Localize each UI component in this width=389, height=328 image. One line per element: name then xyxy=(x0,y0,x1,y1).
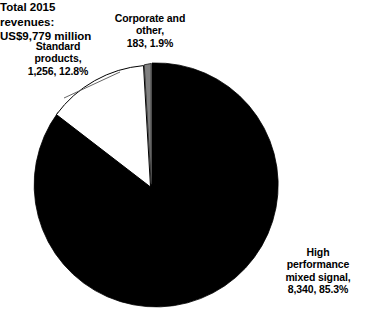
slice-label-corporate-and-other: Corporate and other, 183, 1.9% xyxy=(96,12,204,49)
pie-chart: Corporate and other, 183, 1.9% Standard … xyxy=(0,0,389,328)
slice-label-high-performance-mixed-signal: High performance mixed signal, 8,340, 85… xyxy=(252,246,384,296)
slice-label-standard-products: Standard products, 1,256, 12.8% xyxy=(8,40,108,77)
